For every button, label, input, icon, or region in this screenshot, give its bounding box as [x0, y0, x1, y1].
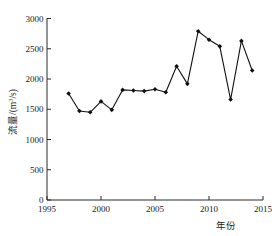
- x-tick-label: 2000: [92, 204, 111, 214]
- y-axis-title-text: 流量/(m3/s): [7, 89, 19, 135]
- data-point-marker: [164, 90, 169, 95]
- series-markers-flow: [66, 29, 254, 115]
- x-axis-title-text: 年份: [216, 220, 236, 231]
- data-point-marker: [142, 89, 147, 94]
- x-tick-label: 2010: [200, 204, 219, 214]
- data-point-marker: [153, 87, 158, 92]
- y-tick-label: 2500: [26, 44, 45, 54]
- data-point-marker: [239, 39, 244, 44]
- data-point-marker: [250, 68, 255, 73]
- chart-plot-area: 0500100015002000250030001995200020052010…: [0, 0, 272, 236]
- x-tick-label: 2015: [254, 204, 272, 214]
- y-tick-label: 1500: [26, 104, 45, 114]
- series-line-flow: [69, 31, 253, 112]
- x-tick-label: 1995: [38, 204, 57, 214]
- y-tick-label: 500: [30, 165, 44, 175]
- data-point-marker: [228, 97, 233, 102]
- x-axis-ticks: 19952000200520102015: [38, 196, 272, 214]
- y-tick-label: 3000: [26, 14, 45, 24]
- y-axis-title: 流量/(m3/s): [7, 89, 19, 135]
- flow-rate-line-chart: 0500100015002000250030001995200020052010…: [0, 0, 272, 236]
- x-tick-label: 2005: [146, 204, 165, 214]
- y-tick-label: 2000: [26, 74, 45, 84]
- data-point-marker: [131, 88, 136, 93]
- data-point-marker: [120, 88, 125, 93]
- y-tick-label: 1000: [26, 135, 45, 145]
